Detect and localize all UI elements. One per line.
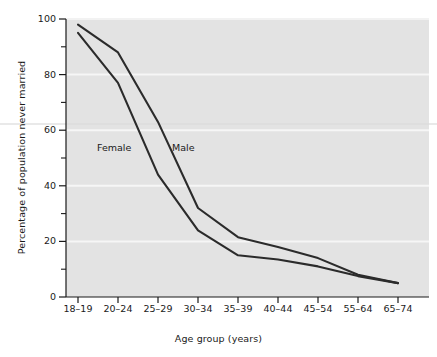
series-annotation-female: Female bbox=[97, 142, 131, 153]
chart-figure: 100 80 60 40 20 0 18–19 20–24 25–29 30–3… bbox=[0, 0, 437, 357]
y-tick-label-20: 20 bbox=[28, 235, 56, 246]
y-axis-title: Percentage of population never married bbox=[16, 33, 27, 283]
y-tick-label-100: 100 bbox=[28, 13, 56, 24]
x-axis-title: Age group (years) bbox=[0, 333, 437, 344]
y-minor-ticks bbox=[61, 47, 66, 269]
y-tick-label-40: 40 bbox=[28, 180, 56, 191]
x-tick-label-65-74: 65–74 bbox=[375, 303, 421, 314]
y-tick-label-0: 0 bbox=[28, 291, 56, 302]
y-tick-label-60: 60 bbox=[28, 124, 56, 135]
series-annotation-male: Male bbox=[172, 142, 195, 153]
y-tick-label-80: 80 bbox=[28, 69, 56, 80]
